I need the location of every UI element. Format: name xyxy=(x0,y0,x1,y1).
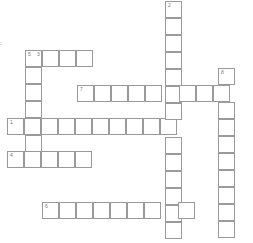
crossword-cell[interactable]: 4 xyxy=(7,151,24,168)
crossword-cell[interactable] xyxy=(111,85,128,102)
crossword-cell[interactable] xyxy=(165,35,182,52)
crossword-cell[interactable] xyxy=(218,119,235,136)
crossword-cell[interactable] xyxy=(25,84,42,101)
crossword-cell[interactable]: 1 xyxy=(7,118,24,135)
crossword-cell[interactable] xyxy=(126,118,143,135)
crossword-cell[interactable] xyxy=(94,85,111,102)
crossword-cell[interactable] xyxy=(165,137,182,154)
clue-number: 8 xyxy=(221,70,224,75)
crossword-cell[interactable] xyxy=(165,171,182,188)
crossword-cell[interactable]: 7 xyxy=(77,85,94,102)
crossword-cell[interactable] xyxy=(144,202,161,219)
crossword-cell[interactable] xyxy=(218,204,235,221)
crossword-cell[interactable] xyxy=(25,135,42,152)
crossword-cell[interactable] xyxy=(109,118,126,135)
crossword-cell[interactable] xyxy=(165,154,182,171)
crossword-cell[interactable] xyxy=(179,85,196,102)
crossword-cell[interactable] xyxy=(24,118,41,135)
crossword-cell[interactable] xyxy=(143,118,160,135)
crossword-cell[interactable] xyxy=(218,170,235,187)
clue-number: 2 xyxy=(168,3,171,8)
crossword-cell[interactable] xyxy=(42,50,59,67)
crossword-cell[interactable] xyxy=(76,202,93,219)
crossword-cell[interactable] xyxy=(92,118,109,135)
clue-number: 3 xyxy=(37,52,40,57)
crossword-cell[interactable] xyxy=(218,102,235,119)
crossword-cell[interactable] xyxy=(160,118,177,135)
clue-number: 6 xyxy=(45,204,48,209)
crossword-cell[interactable] xyxy=(213,85,230,102)
crossword-cell[interactable] xyxy=(59,202,76,219)
crossword-cell[interactable] xyxy=(218,136,235,153)
crossword-cell[interactable] xyxy=(110,202,127,219)
crossword-cell[interactable] xyxy=(41,118,58,135)
crossword-cell[interactable] xyxy=(165,222,182,239)
crossword-cell[interactable]: 8 xyxy=(218,68,235,85)
crossword-cell[interactable] xyxy=(58,118,75,135)
clue-number: 5 xyxy=(28,52,31,57)
crossword-cell[interactable] xyxy=(24,151,41,168)
crossword-cell[interactable] xyxy=(218,221,235,238)
crossword-cell[interactable] xyxy=(75,118,92,135)
crossword-cell[interactable] xyxy=(59,50,76,67)
crossword-cell[interactable] xyxy=(25,67,42,84)
crossword-cell[interactable] xyxy=(41,151,58,168)
crossword-cell[interactable]: 2 xyxy=(165,1,182,18)
crossword-cell[interactable] xyxy=(58,151,75,168)
crossword-cell[interactable] xyxy=(165,52,182,69)
crossword-cell[interactable] xyxy=(25,101,42,118)
crossword-cell[interactable] xyxy=(93,202,110,219)
clue-number: 7 xyxy=(80,87,83,92)
crossword-cell[interactable] xyxy=(165,103,182,120)
crossword-cell[interactable] xyxy=(76,50,93,67)
crossword-cell[interactable] xyxy=(218,153,235,170)
crossword-cell[interactable] xyxy=(165,69,182,86)
crossword-cell[interactable] xyxy=(196,85,213,102)
clue-number: 4 xyxy=(10,153,13,158)
crossword-cell[interactable] xyxy=(128,85,145,102)
crossword-cell[interactable] xyxy=(178,202,195,219)
crossword-cell[interactable] xyxy=(145,85,162,102)
crossword-cell[interactable] xyxy=(127,202,144,219)
crossword-cell[interactable] xyxy=(165,18,182,35)
crossword-cell[interactable]: 6 xyxy=(42,202,59,219)
crossword-cell[interactable] xyxy=(218,187,235,204)
stray-mark: : xyxy=(0,40,2,46)
clue-number: 1 xyxy=(10,120,13,125)
crossword-cell[interactable]: 53 xyxy=(25,50,42,67)
crossword-cell[interactable] xyxy=(75,151,92,168)
crossword-grid: 12534678 xyxy=(0,0,253,243)
